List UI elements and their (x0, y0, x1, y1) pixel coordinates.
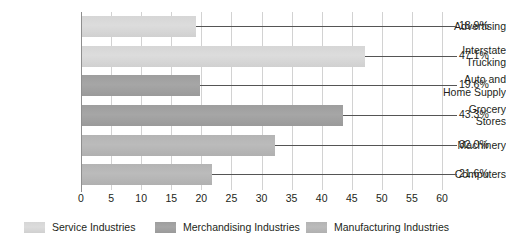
x-tick-label: 25 (226, 192, 238, 204)
x-tick-label: 50 (376, 192, 388, 204)
legend-item-manufacturing[interactable]: Manufacturing Industries (306, 219, 449, 235)
leader-line (200, 85, 457, 86)
legend-label: Manufacturing Industries (334, 221, 449, 233)
x-tick-label: 15 (165, 192, 177, 204)
legend-label: Service Industries (52, 221, 135, 233)
leader-line (343, 115, 457, 116)
bar (82, 75, 200, 96)
leader-line (365, 56, 457, 57)
x-tick-label: 0 (78, 192, 84, 204)
x-tick-label: 45 (346, 192, 358, 204)
bar-chart: AdvertisingInterstateTruckingAuto andHom… (0, 0, 506, 247)
chart-legend: Service IndustriesMerchandising Industri… (0, 219, 506, 239)
x-axis-tick-labels: 051015202530354045505560 (81, 192, 442, 208)
x-tick-label: 55 (406, 192, 418, 204)
bar (82, 164, 212, 185)
legend-label: Merchandising Industries (183, 221, 300, 233)
x-tick-label: 10 (135, 192, 147, 204)
gridline (442, 12, 443, 190)
bar (82, 16, 196, 37)
x-tick-label: 30 (256, 192, 268, 204)
legend-item-service[interactable]: Service Industries (24, 219, 135, 235)
value-label: 43.3% (459, 108, 489, 120)
legend-swatch-icon (306, 222, 327, 233)
x-tick-label: 35 (286, 192, 298, 204)
legend-swatch-icon (155, 222, 176, 233)
x-tick-label: 40 (316, 192, 328, 204)
leader-line (212, 174, 457, 175)
x-tick-label: 5 (108, 192, 114, 204)
x-tick-label: 20 (195, 192, 207, 204)
legend-swatch-icon (24, 222, 45, 233)
leader-line (196, 26, 457, 27)
value-label: 32.0% (459, 138, 489, 150)
plot-area (81, 12, 442, 190)
bar (82, 46, 365, 67)
bar (82, 105, 343, 126)
x-tick-label: 60 (436, 192, 448, 204)
bar (82, 135, 275, 156)
value-label: 47.1% (459, 49, 489, 61)
value-label: 18.9% (459, 19, 489, 31)
leader-line (275, 145, 457, 146)
value-label: 21.6% (459, 167, 489, 179)
value-label: 19.6% (459, 78, 489, 90)
y-axis-line (81, 12, 82, 192)
legend-item-merchandising[interactable]: Merchandising Industries (155, 219, 300, 235)
